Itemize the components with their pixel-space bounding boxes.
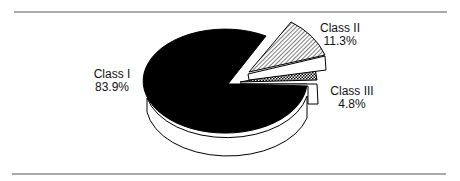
label-class3-pct: 4.8% — [322, 98, 382, 111]
pie-chart — [0, 0, 460, 181]
label-class1: Class I 83.9% — [84, 68, 140, 94]
label-class2-pct: 11.3% — [312, 35, 368, 48]
label-class1-pct: 83.9% — [84, 81, 140, 94]
label-class3: Class III 4.8% — [322, 85, 382, 111]
label-class2: Class II 11.3% — [312, 22, 368, 48]
